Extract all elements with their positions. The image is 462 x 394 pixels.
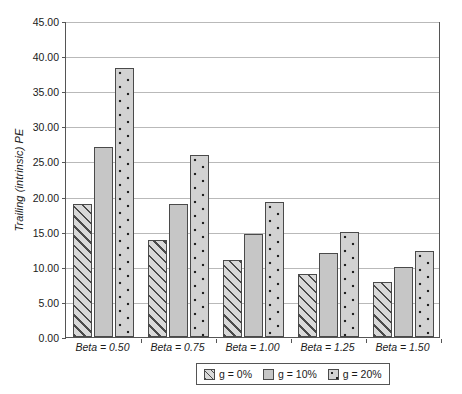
bar-group: [366, 23, 441, 337]
x-axis-tick-label: Beta = 1.00: [215, 341, 290, 353]
bar: [265, 202, 284, 337]
y-axis-tick-label: 5.00: [13, 298, 59, 308]
bar: [298, 274, 317, 337]
y-axis-tick-label: 10.00: [13, 263, 59, 273]
x-axis-tick-label: Beta = 1.50: [365, 341, 440, 353]
bar: [73, 204, 92, 337]
bar-group: [141, 23, 216, 337]
bar: [373, 282, 392, 337]
y-axis-tick-label: 30.00: [13, 122, 59, 132]
legend-item: g = 10%: [263, 368, 317, 380]
legend-swatch-icon: [204, 369, 215, 380]
bar: [394, 267, 413, 337]
plot-area: [65, 22, 440, 338]
bar: [169, 204, 188, 337]
bar: [244, 234, 263, 337]
bar: [190, 155, 209, 337]
bar: [115, 68, 134, 337]
y-axis-tick-label: 25.00: [13, 157, 59, 167]
y-axis-tick-label: 0.00: [13, 333, 59, 343]
x-axis-tick: [441, 339, 442, 343]
y-axis-tick-label: 20.00: [13, 193, 59, 203]
bar: [148, 240, 167, 337]
x-axis-tick-label: Beta = 0.50: [65, 341, 140, 353]
bar-group: [216, 23, 291, 337]
bar: [319, 253, 338, 337]
y-axis-tick: [62, 338, 66, 339]
legend-label: g = 0%: [219, 368, 252, 380]
y-axis-tick-label: 35.00: [13, 87, 59, 97]
legend-item: g = 0%: [204, 368, 252, 380]
y-axis-tick-label: 40.00: [13, 52, 59, 62]
legend-swatch-icon: [328, 369, 339, 380]
bar-chart: Trailing (intrinsic) PE 0.005.0010.0015.…: [0, 0, 462, 394]
x-axis-tick-labels: Beta = 0.50Beta = 0.75Beta = 1.00Beta = …: [65, 341, 440, 357]
y-axis-tick-labels: 0.005.0010.0015.0020.0025.0030.0035.0040…: [9, 22, 59, 338]
legend-item: g = 20%: [328, 368, 382, 380]
y-axis-tick-label: 15.00: [13, 228, 59, 238]
x-axis-tick-label: Beta = 0.75: [140, 341, 215, 353]
bar-group: [291, 23, 366, 337]
bar: [340, 232, 359, 337]
y-axis-tick-label: 45.00: [13, 17, 59, 27]
x-axis-tick-label: Beta = 1.25: [290, 341, 365, 353]
legend-label: g = 20%: [343, 368, 382, 380]
bar: [94, 147, 113, 337]
legend-label: g = 10%: [278, 368, 317, 380]
bar: [223, 260, 242, 337]
bar: [415, 251, 434, 337]
chart-legend: g = 0%g = 10%g = 20%: [196, 363, 390, 385]
bar-group: [66, 23, 141, 337]
legend-swatch-icon: [263, 369, 274, 380]
